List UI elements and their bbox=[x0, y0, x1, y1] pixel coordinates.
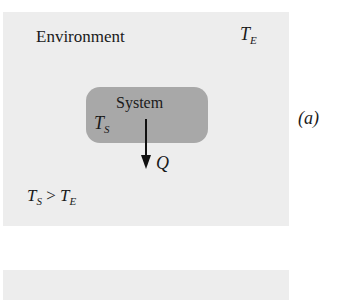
arrow-head-icon bbox=[141, 155, 151, 169]
environment-temperature: TE bbox=[240, 24, 257, 46]
heat-label: Q bbox=[156, 153, 169, 174]
system-label: System bbox=[116, 94, 163, 112]
heat-flow-arrow bbox=[145, 119, 147, 159]
part-label: (a) bbox=[298, 108, 319, 129]
system-temperature: TS bbox=[94, 113, 110, 135]
environment-region-b bbox=[3, 270, 289, 300]
environment-label: Environment bbox=[36, 27, 125, 47]
temperature-condition: TS > TE bbox=[27, 186, 76, 207]
